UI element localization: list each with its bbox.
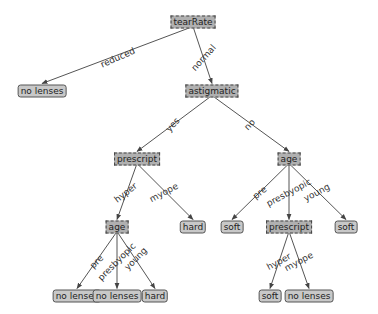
- leaf-node-no-lenses: no lenses: [18, 85, 67, 98]
- leaf-node-hard: hard: [142, 290, 168, 303]
- decision-node-age: age: [278, 153, 301, 166]
- leaf-node-soft: soft: [335, 221, 358, 234]
- decision-node-prescript: prescript: [266, 221, 312, 234]
- leaf-node-no-lenses: no lenses: [93, 290, 142, 303]
- edge-label-myope: myope: [148, 181, 180, 205]
- decision-node-age: age: [106, 221, 129, 234]
- decision-tree-canvas: reducednormalyesnohypermyopeprepresbyopi…: [0, 0, 378, 314]
- decision-node-prescript: prescript: [114, 153, 160, 166]
- edge-label-reduced: reduced: [99, 46, 137, 70]
- leaf-node-no-lenses: no lenses: [285, 290, 334, 303]
- leaf-node-hard: hard: [180, 221, 206, 234]
- decision-node-tearrate: tearRate: [171, 16, 216, 29]
- leaf-node-soft: soft: [221, 221, 244, 234]
- decision-node-astigmatic: astigmatic: [185, 85, 238, 98]
- leaf-node-soft: soft: [259, 290, 282, 303]
- edge-label-normal: normal: [189, 43, 218, 73]
- edge-label-hyper: hyper: [112, 180, 139, 204]
- edge-label-yes: yes: [164, 115, 182, 133]
